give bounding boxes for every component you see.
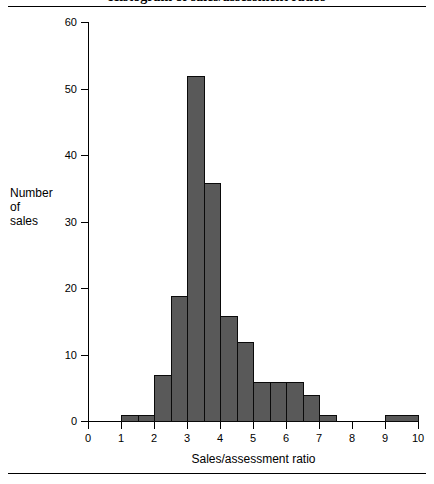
histogram-figure: Histogram of sales/assessment ratios 010… <box>0 0 434 484</box>
y-axis-tick <box>81 288 88 289</box>
histogram-bar <box>204 183 222 422</box>
y-axis-title-line-1: Number <box>10 186 76 200</box>
x-axis-tick-label: 5 <box>238 432 268 444</box>
x-axis-tick-label: 6 <box>271 432 301 444</box>
histogram-bar <box>171 296 189 422</box>
y-axis-tick <box>81 22 88 23</box>
y-axis-tick-label: 40 <box>37 150 77 161</box>
top-rule <box>8 6 426 7</box>
x-axis-tick-label: 1 <box>106 432 136 444</box>
histogram-bar <box>220 316 238 422</box>
y-axis-tick <box>81 89 88 90</box>
x-axis-tick-label: 2 <box>139 432 169 444</box>
x-axis-tick <box>418 422 419 429</box>
x-axis-tick <box>88 422 89 429</box>
y-axis-tick <box>81 222 88 223</box>
x-axis-tick-label: 8 <box>337 432 367 444</box>
histogram-bars <box>88 22 419 422</box>
histogram-bar <box>385 415 419 422</box>
histogram-bar <box>154 375 172 422</box>
x-axis-tick <box>253 422 254 429</box>
x-axis-tick-label: 9 <box>370 432 400 444</box>
histogram-bar <box>286 382 304 422</box>
x-axis-tick <box>385 422 386 429</box>
histogram-bar <box>237 342 255 422</box>
histogram-bar <box>319 415 337 422</box>
y-axis-title-line-3: sales <box>10 214 76 228</box>
x-axis-tick <box>352 422 353 429</box>
y-axis-tick-label: 10 <box>37 350 77 361</box>
y-axis-tick <box>81 421 88 422</box>
y-axis-title: Number of sales <box>10 186 76 228</box>
histogram-bar <box>270 382 288 422</box>
x-axis-tick <box>154 422 155 429</box>
histogram-bar <box>303 395 321 422</box>
bottom-rule <box>8 473 426 474</box>
y-axis-tick-label: 60 <box>37 17 77 28</box>
y-axis-tick <box>81 155 88 156</box>
x-axis-tick <box>319 422 320 429</box>
histogram-bar <box>138 415 156 422</box>
y-axis-tick-label: 50 <box>37 84 77 95</box>
histogram-bar <box>187 76 205 422</box>
histogram-bar <box>121 415 139 422</box>
y-axis-title-line-2: of <box>10 200 76 214</box>
x-axis-tick-label: 7 <box>304 432 334 444</box>
x-axis-tick-label: 0 <box>73 432 103 444</box>
y-axis-tick <box>81 355 88 356</box>
x-axis-tick-label: 3 <box>172 432 202 444</box>
y-axis-tick-label: 20 <box>37 283 77 294</box>
x-axis-tick-label: 10 <box>403 432 433 444</box>
x-axis-tick <box>121 422 122 429</box>
chart-title-text: Histogram of sales/assessment ratios <box>8 0 426 5</box>
x-axis-tick <box>220 422 221 429</box>
x-axis-title: Sales/assessment ratio <box>88 452 419 466</box>
x-axis-tick-label: 4 <box>205 432 235 444</box>
histogram-bar <box>253 382 271 422</box>
x-axis-tick <box>187 422 188 429</box>
y-axis-tick-label: 0 <box>37 416 77 427</box>
chart-title-clipped: Histogram of sales/assessment ratios <box>8 0 426 5</box>
x-axis-tick <box>286 422 287 429</box>
